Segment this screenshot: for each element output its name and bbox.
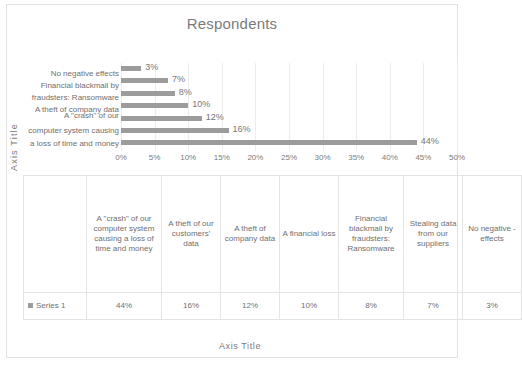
bar-value-label: 16% xyxy=(233,124,251,134)
legend-cell[interactable]: Series 1 xyxy=(24,293,87,320)
y-axis-title: Axis Title xyxy=(9,123,23,171)
value-axis-tick-label: 10% xyxy=(180,153,196,162)
bar-row[interactable]: 3% xyxy=(121,63,457,75)
value-axis-tick-labels: 0%5%10%15%20%25%30%35%40%45%50% xyxy=(121,153,457,167)
value-axis-tick-label: 0% xyxy=(115,153,127,162)
bar-value-label: 10% xyxy=(192,99,210,109)
table-header-cell: No negative -effects xyxy=(463,176,522,293)
bar[interactable] xyxy=(121,116,202,121)
bar[interactable] xyxy=(121,78,168,83)
bar[interactable] xyxy=(121,128,229,133)
bar[interactable] xyxy=(121,103,188,108)
data-table: A "crash" of our computer system causing… xyxy=(23,175,522,320)
table-header-row: A "crash" of our computer system causing… xyxy=(24,176,522,293)
bar[interactable] xyxy=(121,91,175,96)
chart-container[interactable]: Respondents Axis Title No negative effec… xyxy=(6,4,458,358)
bar-row[interactable]: 12% xyxy=(121,113,457,125)
category-axis-label: A "crash" of our xyxy=(23,111,119,120)
bar-row[interactable]: 10% xyxy=(121,100,457,112)
table-header-cell: A theft of our customers' data xyxy=(162,176,221,293)
table-value-cell: 10% xyxy=(280,293,339,320)
category-axis-labels: No negative effectsFinancial blackmail b… xyxy=(23,63,119,155)
table-header-cell: A financial loss xyxy=(280,176,339,293)
bar-row[interactable]: 8% xyxy=(121,88,457,100)
category-axis-label: No negative effects xyxy=(23,69,119,78)
bar-value-label: 44% xyxy=(421,136,439,146)
plot-area: 3%7%8%10%12%16%44% xyxy=(121,63,457,151)
table-value-cell: 12% xyxy=(221,293,280,320)
value-axis-tick-label: 30% xyxy=(315,153,331,162)
x-axis-title: Axis Title xyxy=(23,341,457,351)
value-axis-tick-label: 15% xyxy=(214,153,230,162)
category-axis-label: Financial blackmail by xyxy=(23,81,119,90)
table-header-cell: A "crash" of our computer system causing… xyxy=(87,176,162,293)
bar-row[interactable]: 16% xyxy=(121,125,457,137)
table-corner-cell xyxy=(24,176,87,293)
gridline xyxy=(457,63,458,151)
bar-value-label: 12% xyxy=(206,112,224,122)
value-axis-tick-label: 40% xyxy=(382,153,398,162)
category-axis-label: fraudsters: Ransomware xyxy=(23,93,119,102)
bar-value-label: 3% xyxy=(145,62,158,72)
value-axis-tick-label: 35% xyxy=(348,153,364,162)
bar-row[interactable]: 44% xyxy=(121,137,457,149)
category-axis-label: computer system causing xyxy=(23,126,119,135)
value-axis-tick-label: 50% xyxy=(449,153,465,162)
bar-value-label: 8% xyxy=(179,87,192,97)
value-axis-tick-label: 45% xyxy=(415,153,431,162)
bar[interactable] xyxy=(121,66,141,71)
table-header-cell: Financial blackmail by fraudsters: Ranso… xyxy=(339,176,404,293)
table-header-cell: A theft of company data xyxy=(221,176,280,293)
category-axis-label: a loss of time and money xyxy=(23,139,119,148)
value-axis-tick-label: 25% xyxy=(281,153,297,162)
bar-value-label: 7% xyxy=(172,74,185,84)
chart-title: Respondents xyxy=(7,15,457,32)
table-row: Series 1 44%16%12%10%8%7%3% xyxy=(24,293,522,320)
table-value-cell: 16% xyxy=(162,293,221,320)
table-header-cell: Stealing data from our suppliers xyxy=(404,176,463,293)
legend-label: Series 1 xyxy=(36,301,65,310)
value-axis-tick-label: 5% xyxy=(149,153,161,162)
table-value-cell: 8% xyxy=(339,293,404,320)
table-value-cell: 3% xyxy=(463,293,522,320)
table-value-cell: 44% xyxy=(87,293,162,320)
bar-row[interactable]: 7% xyxy=(121,75,457,87)
table-value-cell: 7% xyxy=(404,293,463,320)
bar[interactable] xyxy=(121,140,417,145)
legend-swatch-icon xyxy=(28,303,33,308)
value-axis-tick-label: 20% xyxy=(247,153,263,162)
